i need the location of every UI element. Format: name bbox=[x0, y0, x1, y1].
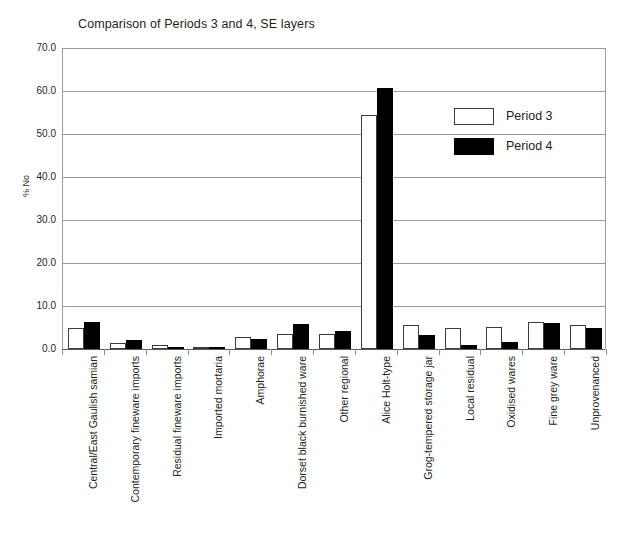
x-tick-label: Other regional bbox=[339, 356, 350, 423]
y-tick-label: 0.0 bbox=[22, 344, 56, 354]
legend-swatch-period-3 bbox=[454, 108, 494, 125]
plot-area bbox=[62, 48, 606, 349]
x-tick-label: Residual fineware imports bbox=[172, 356, 183, 477]
bar bbox=[528, 322, 544, 349]
x-tick bbox=[480, 349, 481, 355]
y-tick-label: 20.0 bbox=[22, 258, 56, 268]
y-tick-label: 10.0 bbox=[22, 301, 56, 311]
x-tick bbox=[397, 349, 398, 355]
x-tick-label: Alice Holt-type bbox=[381, 356, 392, 424]
bar bbox=[445, 328, 461, 350]
bar bbox=[251, 339, 267, 349]
x-axis-tick-labels: Central/East Gaulish samianContemporary … bbox=[62, 356, 606, 534]
x-tick-label: Central/East Gaulish samian bbox=[88, 356, 99, 489]
bar bbox=[377, 88, 393, 349]
x-tick-label: Contemporary fineware imports bbox=[130, 356, 141, 502]
x-tick bbox=[188, 349, 189, 355]
x-tick bbox=[313, 349, 314, 355]
bar bbox=[486, 327, 502, 349]
x-tick bbox=[564, 349, 565, 355]
y-tick-label: 40.0 bbox=[22, 172, 56, 182]
legend-label-period-4: Period 4 bbox=[506, 138, 553, 155]
x-tick-label: Grog-tempered storage jar bbox=[423, 356, 434, 480]
bar bbox=[544, 323, 560, 349]
bar bbox=[293, 324, 309, 349]
x-tick bbox=[439, 349, 440, 355]
x-tick bbox=[229, 349, 230, 355]
x-tick bbox=[271, 349, 272, 355]
legend-item-period-4: Period 4 bbox=[454, 133, 574, 163]
bar bbox=[570, 325, 586, 350]
bar bbox=[235, 337, 251, 349]
y-axis-tick-labels: 70.060.050.040.030.020.010.00.0 bbox=[22, 0, 56, 538]
bar bbox=[502, 342, 518, 349]
bar bbox=[68, 328, 84, 350]
x-tick bbox=[522, 349, 523, 355]
x-tick bbox=[146, 349, 147, 355]
x-tick bbox=[606, 349, 607, 355]
x-tick-label: Oxidised wares bbox=[506, 356, 517, 428]
x-tick-label: Fine grey ware bbox=[548, 356, 559, 425]
bar bbox=[403, 325, 419, 350]
x-tick-label: Unprovenanced bbox=[590, 356, 601, 430]
legend-item-period-3: Period 3 bbox=[454, 103, 574, 133]
y-tick-label: 30.0 bbox=[22, 215, 56, 225]
bar bbox=[419, 335, 435, 349]
chart-title: Comparison of Periods 3 and 4, SE layers bbox=[78, 17, 315, 31]
y-tick-label: 50.0 bbox=[22, 129, 56, 139]
bar bbox=[361, 115, 377, 349]
bar bbox=[84, 322, 100, 349]
legend-swatch-period-4 bbox=[454, 138, 494, 155]
x-tick-label: Local residual bbox=[465, 356, 476, 421]
y-tick-label: 60.0 bbox=[22, 86, 56, 96]
chart-legend: Period 3 Period 4 bbox=[454, 103, 574, 163]
bar bbox=[319, 334, 335, 349]
x-tick bbox=[62, 349, 63, 355]
x-tick-label: Imported mortaria bbox=[213, 356, 224, 439]
bar bbox=[335, 331, 351, 349]
x-tick-label: Amphorae bbox=[255, 356, 266, 404]
x-tick bbox=[355, 349, 356, 355]
x-tick bbox=[104, 349, 105, 355]
y-tick-label: 70.0 bbox=[22, 43, 56, 53]
bars-layer bbox=[63, 48, 605, 349]
bar bbox=[586, 328, 602, 349]
chart-figure: Comparison of Periods 3 and 4, SE layers… bbox=[0, 0, 632, 538]
bar bbox=[277, 334, 293, 349]
bar bbox=[126, 340, 142, 349]
x-tick-label: Dorset black burnished ware bbox=[297, 356, 308, 489]
legend-label-period-3: Period 3 bbox=[506, 108, 553, 125]
x-axis-ticks bbox=[62, 349, 606, 356]
